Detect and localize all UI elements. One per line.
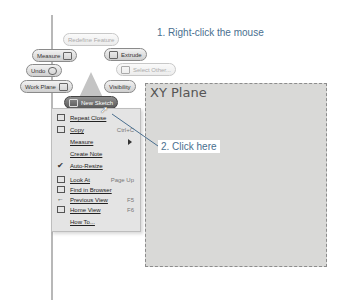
callout-leader-line <box>0 0 347 307</box>
mouse-cursor-icon: ➚ <box>100 104 108 115</box>
callout-step-2: 2. Click here <box>158 140 220 153</box>
